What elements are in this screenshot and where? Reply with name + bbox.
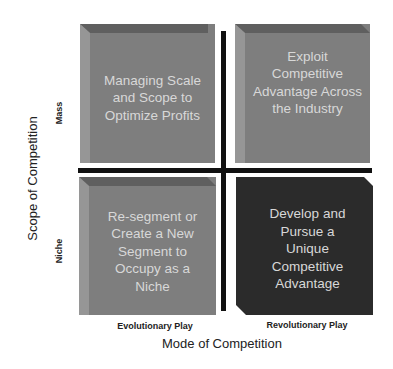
y-label-mass: Mass [54,98,64,128]
quadrant-niche-evolutionary: Re-segment or Create a New Segment to Oc… [79,177,216,315]
box-bevel-left [80,24,90,163]
box-bevel-left [235,24,245,163]
quadrant-text: Managing Scale and Scope to Optimize Pro… [104,72,201,125]
x-label-revolutionary: Revolutionary Play [262,320,352,330]
x-label-evolutionary: Evolutionary Play [114,321,196,331]
horizontal-divider [78,168,372,173]
quadrant-niche-revolutionary: Develop and Pursue a Unique Competitive … [236,177,373,315]
quadrant-text: Develop and Pursue a Unique Competitive … [270,205,346,293]
x-axis-title: Mode of Competition [147,336,297,351]
y-label-niche: Niche [54,236,64,266]
quadrant-text: Exploit Competitive Advantage Across the… [253,48,362,118]
quadrant-text: Re-segment or Create a New Segment to Oc… [108,208,197,296]
box-bevel-left [79,177,89,315]
y-axis-title: Scope of Competition [25,109,40,249]
box-bevel-top [80,24,208,33]
quadrant-mass-revolutionary: Exploit Competitive Advantage Across the… [235,24,370,163]
quadrant-mass-evolutionary: Managing Scale and Scope to Optimize Pro… [80,24,215,163]
box-bevel-top [79,177,216,186]
